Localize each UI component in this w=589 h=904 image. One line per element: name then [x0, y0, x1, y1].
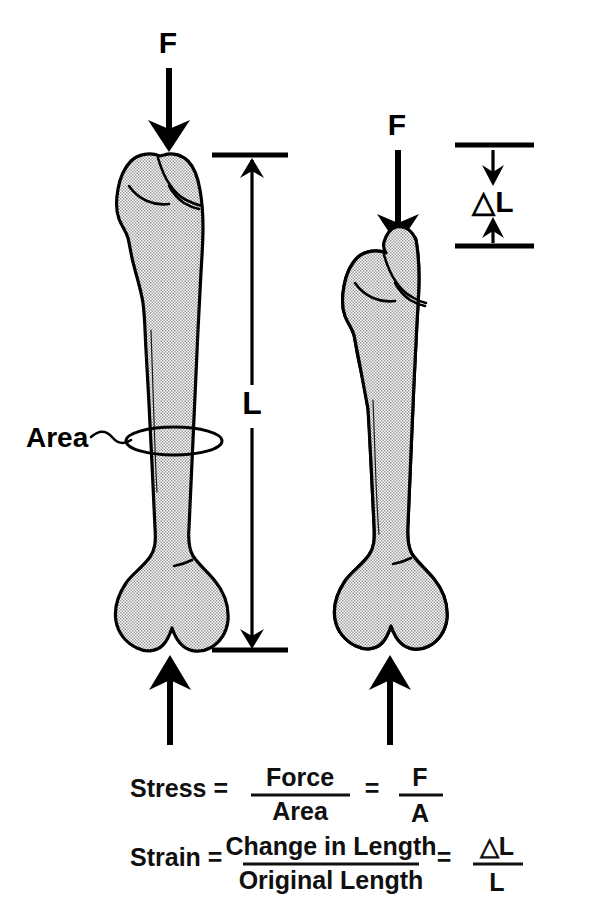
stress-formula-lhs: Stress =	[130, 774, 228, 802]
length-label: L	[242, 385, 262, 421]
right-top-force-label: F	[388, 108, 406, 141]
strain-formula-denominator: Original Length	[239, 866, 424, 894]
strain-result-denominator: L	[489, 868, 504, 896]
stress-formula-numerator: Force	[266, 763, 334, 791]
deformation-label: △L	[471, 185, 513, 218]
figure-root: F Area	[0, 0, 589, 904]
strain-formula-numerator: Change in Length	[225, 832, 436, 860]
strain-formula-lhs: Strain =	[130, 843, 222, 871]
area-label: Area	[26, 422, 89, 453]
stress-result-numerator: F	[412, 763, 427, 791]
left-top-force-label: F	[159, 26, 177, 59]
strain-formula-equals: =	[437, 843, 452, 871]
strain-result-numerator: △L	[479, 832, 514, 860]
stress-result-denominator: A	[411, 799, 429, 827]
bone-stress-strain-diagram: F Area	[0, 0, 589, 904]
stress-formula-equals: =	[365, 774, 380, 802]
stress-formula-denominator: Area	[272, 797, 329, 825]
